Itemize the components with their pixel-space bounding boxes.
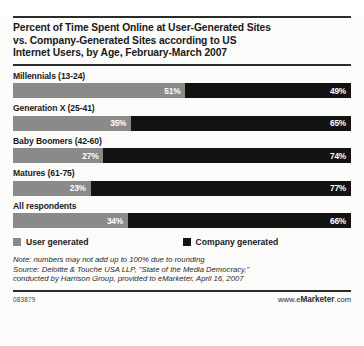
bar-segment-user-generated: 34% [13, 213, 128, 228]
bar-segment-company-generated: 49% [185, 83, 351, 98]
bar-segment-company-generated: 65% [131, 116, 351, 131]
brand-name: Marketer [300, 295, 334, 304]
brand-suffix: .com [335, 295, 351, 304]
stacked-bar: 51% 49% [13, 83, 351, 98]
chart-card: Percent of Time Spent Online at User-Gen… [0, 16, 364, 346]
bar-group-label: All respondents [13, 201, 351, 211]
chart-footer: 083879 www.eMarketer.com [13, 295, 351, 304]
legend-swatch-icon-user-generated [13, 238, 21, 246]
title-divider [13, 64, 351, 66]
chart-title: Percent of Time Spent Online at User-Gen… [13, 22, 351, 60]
chart-id: 083879 [13, 296, 36, 303]
bar-group-all-respondents: All respondents 34% 66% [13, 201, 351, 229]
legend-swatch-icon-company-generated [183, 238, 191, 246]
brand-prefix: www.e [278, 295, 300, 304]
stacked-bar: 35% 65% [13, 116, 351, 131]
chart-title-line-2: vs. Company-Generated Sites according to… [13, 35, 351, 48]
bar-group-label: Matures (61-75) [13, 168, 351, 178]
bar-group-label: Generation X (25-41) [13, 103, 351, 113]
brand-url: www.eMarketer.com [278, 295, 351, 304]
stacked-bar: 34% 66% [13, 213, 351, 228]
bar-group-millennials: Millennials (13-24) 51% 49% [13, 71, 351, 99]
bar-segment-company-generated: 66% [128, 213, 351, 228]
top-divider [13, 16, 351, 18]
footnote-note-line: Note: numbers may not add up to 100% due… [13, 255, 351, 265]
bar-segment-user-generated: 35% [13, 116, 131, 131]
stacked-bar: 23% 77% [13, 181, 351, 196]
bar-segment-user-generated: 51% [13, 83, 185, 98]
bar-group-generation-x: Generation X (25-41) 35% 65% [13, 103, 351, 131]
bar-segment-company-generated: 74% [103, 148, 351, 163]
footnote-conducted-line: conducted by Harrison Group, provided to… [13, 274, 351, 284]
legend-item-company-generated: Company generated [183, 237, 279, 247]
bar-group-label: Baby Boomers (42-60) [13, 136, 351, 146]
bar-group-baby-boomers: Baby Boomers (42-60) 27% 74% [13, 136, 351, 164]
legend-label: Company generated [196, 237, 279, 247]
bottom-divider [13, 290, 351, 292]
footnote-source-line: Source: Deloitte & Touche USA LLP, "Stat… [13, 265, 351, 275]
bar-group-label: Millennials (13-24) [13, 71, 351, 81]
chart-legend: User generated Company generated [13, 237, 351, 247]
stacked-bar: 27% 74% [13, 148, 351, 163]
chart-title-line-1: Percent of Time Spent Online at User-Gen… [13, 22, 351, 35]
bar-group-matures: Matures (61-75) 23% 77% [13, 168, 351, 196]
chart-title-line-3: Internet Users, by Age, February-March 2… [13, 47, 351, 60]
bar-segment-company-generated: 77% [91, 181, 351, 196]
legend-label: User generated [26, 237, 89, 247]
chart-footnote: Note: numbers may not add up to 100% due… [13, 255, 351, 284]
bar-segment-user-generated: 27% [13, 148, 103, 163]
legend-item-user-generated: User generated [13, 237, 89, 247]
bar-segment-user-generated: 23% [13, 181, 91, 196]
